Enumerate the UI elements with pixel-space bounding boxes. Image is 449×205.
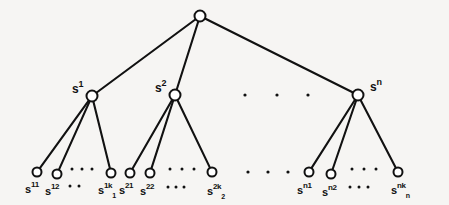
tree-node-root[interactable] [195,11,206,22]
tree-leaf-node-s1k1[interactable] [107,169,116,178]
tree-leaf-node-s11[interactable] [33,168,42,177]
ellipsis-leaves-c3-lower-dot-0 [349,186,352,189]
tree-edge-s1-to-s1k1 [93,101,110,169]
tree-leaf-node-sn1[interactable] [305,168,314,177]
tree-edge-sn-to-snkn [360,99,396,168]
ellipsis-leaves-c1-dot-2 [91,168,94,171]
tree-edge-s2-to-s2k2 [177,100,210,169]
tree-node-sn[interactable] [353,90,364,101]
tree-leaf-label-s11: s11 [25,180,39,196]
ellipsis-leaves-c3-lower-dot-2 [367,186,370,189]
ellipsis-leaves-mid-dot-0 [246,170,249,173]
ellipsis-leaves-mid-dot-1 [266,170,269,173]
tree-leaf-label-s22: s22 [140,182,154,198]
ellipsis-level1-mid-dot-1 [275,93,278,96]
ellipsis-leaves-c2-dot-1 [181,168,184,171]
tree-leaf-label-s1k1: s1k1 [98,181,116,197]
nodes-layer [33,11,403,179]
tree-leaf-node-s21[interactable] [126,169,135,178]
ellipsis-level1-mid-dot-2 [306,93,309,96]
tree-node-s1[interactable] [87,91,98,102]
tree-leaf-node-snkn[interactable] [394,168,403,177]
tree-leaf-label-snkn: snkn [391,181,410,197]
tree-edge-sn-to-sn1 [311,99,355,168]
tree-leaf-label-sn2: sn2 [322,183,337,199]
tree-leaf-node-s22[interactable] [146,169,155,178]
tree-node-s2[interactable] [170,90,181,101]
ellipsis-leaves-c2-lower-dot-2 [183,186,186,189]
label-subscript: 2 [221,193,225,200]
tree-leaf-label-s21: s21 [119,181,133,197]
label-superscript: n1 [303,181,312,190]
tree-edge-sn-to-sn2 [332,100,356,170]
label-superscript: n [376,77,381,87]
label-superscript: nk [397,181,406,190]
label-superscript: 22 [146,182,154,191]
label-superscript: 2 [161,78,166,88]
ellipsis-leaves-c1-dot-0 [71,168,74,171]
label-superscript: n2 [328,183,337,192]
label-superscript: 2k [213,182,221,191]
label-superscript: 21 [125,181,133,190]
tree-leaf-label-s12: s12 [45,182,59,198]
label-superscript: 1k [104,181,112,190]
ellipsis-leaves-c1-dot-1 [81,168,84,171]
tree-leaf-node-s2k2[interactable] [208,168,217,177]
tree-edge-s2-to-s22 [151,100,173,169]
tree-leaf-node-sn2[interactable] [327,170,336,179]
tree-node-label-s1: s1 [72,80,83,96]
ellipsis-leaves-c2-lower-dot-1 [175,186,178,189]
ellipsis-leaves-c3-dot-1 [363,168,366,171]
label-superscript: 1 [78,79,83,89]
tree-graphics [0,0,449,205]
label-subscript: n [406,192,410,199]
tree-edge-s2-to-s21 [132,99,173,169]
label-superscript: 12 [51,182,59,191]
tree-leaf-label-s2k2: s2k2 [207,182,225,198]
ellipsis-level1-mid-dot-0 [243,93,246,96]
tree-leaf-label-sn1: sn1 [297,181,312,197]
ellipsis-leaves-mid-dot-2 [286,170,289,173]
ellipsis-leaves-c2-dot-2 [193,168,196,171]
ellipsis-leaves-c1-lower-dot-1 [78,185,81,188]
tree-edge-root-to-sn [204,18,353,93]
ellipsis-leaves-c1-lower-dot-0 [69,185,72,188]
tree-edge-root-to-s1 [96,19,196,93]
ellipsis-leaves-c3-lower-dot-1 [358,186,361,189]
ellipsis-leaves-c2-lower-dot-0 [167,186,170,189]
tree-diagram-figure: s1s2sns11s12s1k1s21s22s2k2sn1sn2snkn [0,0,449,205]
label-superscript: 11 [31,180,39,189]
tree-node-label-s2: s2 [155,79,166,95]
ellipsis-leaves-c3-dot-2 [375,168,378,171]
label-subscript: 1 [112,192,116,199]
ellipsis-leaves-c3-dot-0 [351,168,354,171]
ellipsis-leaves-c2-dot-0 [169,168,172,171]
tree-leaf-node-s12[interactable] [53,170,62,179]
tree-node-label-sn: sn [370,78,382,94]
